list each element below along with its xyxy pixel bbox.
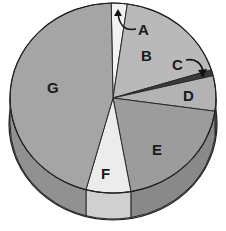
slice-side-f bbox=[86, 190, 131, 219]
slice-label-f: F bbox=[101, 165, 110, 182]
slice-label-c: C bbox=[172, 56, 183, 73]
pie-chart: A B C D E F G bbox=[0, 0, 226, 231]
slice-label-d: D bbox=[183, 87, 194, 104]
slice-label-a: A bbox=[138, 21, 149, 38]
slice-label-g: G bbox=[47, 79, 59, 96]
slice-label-e: E bbox=[152, 141, 162, 158]
slice-label-b: B bbox=[141, 47, 152, 64]
